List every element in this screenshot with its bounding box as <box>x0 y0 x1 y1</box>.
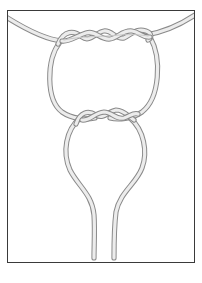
lower-loop <box>66 118 145 258</box>
knot-illustration <box>0 0 202 283</box>
upper-wrap <box>58 30 151 44</box>
upper-loop <box>50 37 158 119</box>
